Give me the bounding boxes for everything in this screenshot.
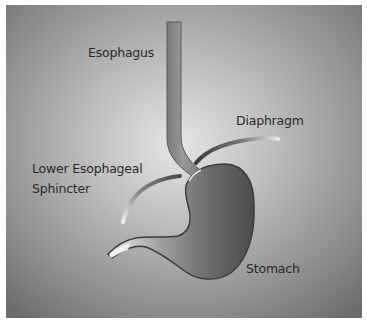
- diagram-canvas: Esophagus Diaphragm Lower Esophageal Sph…: [0, 0, 367, 323]
- label-diaphragm: Diaphragm: [236, 113, 304, 129]
- label-stomach: Stomach: [246, 261, 300, 277]
- label-esophagus: Esophagus: [88, 45, 154, 61]
- label-les-line2: Sphincter: [32, 181, 90, 197]
- label-les-line1: Lower Esophageal: [32, 161, 143, 177]
